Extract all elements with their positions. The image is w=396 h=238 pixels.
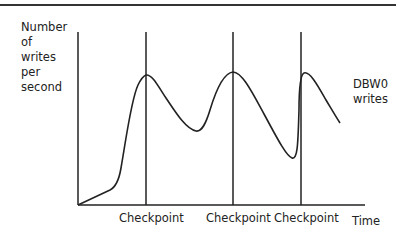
checkpoint-label-3: Checkpoint — [274, 211, 339, 226]
checkpoint-label-1: Checkpoint — [119, 211, 184, 226]
series-label: DBW0 writes — [353, 77, 388, 107]
y-axis-label-line: second — [21, 80, 81, 95]
y-axis-label-line: per — [21, 65, 81, 80]
series-label-line: writes — [353, 92, 388, 107]
y-axis-label-line: writes — [21, 50, 81, 65]
y-axis-label-line: Number of — [21, 20, 81, 50]
x-axis-label: Time — [352, 214, 380, 229]
checkpoint-label-2: Checkpoint — [206, 211, 271, 226]
series-label-line: DBW0 — [353, 77, 388, 92]
y-axis-label: Number of writes per second — [21, 20, 81, 95]
